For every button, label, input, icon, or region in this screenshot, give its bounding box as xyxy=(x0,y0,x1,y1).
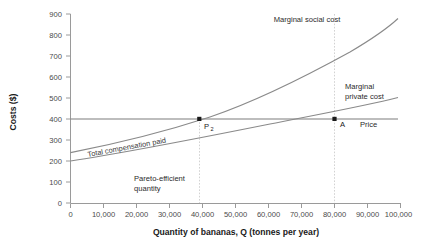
droplines-group xyxy=(200,14,335,203)
x-axis-ticks xyxy=(71,204,401,209)
y-tick-label-200: 200 xyxy=(49,157,62,166)
y-tick-label-600: 600 xyxy=(49,73,62,82)
y-tick-label-700: 700 xyxy=(49,52,62,61)
point-label-a: A xyxy=(340,120,346,129)
y-tick-label-300: 300 xyxy=(49,136,62,145)
point-label-p2: P 2 xyxy=(204,122,214,132)
y-tick-label-400: 400 xyxy=(49,115,62,124)
point-label-p2-subscript: 2 xyxy=(211,126,214,132)
x-tick-label-20000: 20,000 xyxy=(125,210,148,219)
pareto-efficient-quantity-label-line2: quantity xyxy=(134,184,161,193)
y-axis-tick-labels: 900 800 700 600 500 400 300 200 100 0 xyxy=(49,10,62,208)
pareto-efficient-quantity-label-line1: Pareto-efficient xyxy=(134,174,186,183)
y-axis-ticks xyxy=(66,14,71,203)
x-tick-label-80000: 80,000 xyxy=(323,210,346,219)
x-axis-tick-labels: 0 10,000 20,000 30,000 40,000 50,000 60,… xyxy=(68,210,412,219)
axis-group xyxy=(71,14,402,204)
x-tick-label-50000: 50,000 xyxy=(224,210,247,219)
x-tick-label-100000: 100,000 xyxy=(385,210,412,219)
x-tick-label-10000: 10,000 xyxy=(92,210,115,219)
marginal-private-cost-label-line2: private cost xyxy=(345,92,385,101)
x-tick-label-60000: 60,000 xyxy=(257,210,280,219)
point-marker-p2[interactable] xyxy=(197,117,201,121)
marginal-private-cost-label-line1: Marginal xyxy=(345,82,374,91)
price-label: Price xyxy=(360,120,377,129)
chart-figure: 900 800 700 600 500 400 300 200 100 0 xyxy=(0,0,422,247)
y-tick-label-800: 800 xyxy=(49,31,62,40)
marginal-social-cost-label: Marginal social cost xyxy=(274,15,342,24)
x-axis-title: Quantity of bananas, Q (tonnes per year) xyxy=(153,227,319,237)
chart-svg: 900 800 700 600 500 400 300 200 100 0 xyxy=(0,0,422,247)
x-tick-label-70000: 70,000 xyxy=(290,210,313,219)
x-tick-label-40000: 40,000 xyxy=(191,210,214,219)
x-tick-label-90000: 90,000 xyxy=(356,210,379,219)
x-tick-label-0: 0 xyxy=(68,210,72,219)
point-marker-a[interactable] xyxy=(332,117,336,121)
y-tick-label-100: 100 xyxy=(49,178,62,187)
point-label-p2-text: P xyxy=(204,122,209,131)
y-tick-label-500: 500 xyxy=(49,94,62,103)
y-tick-label-0: 0 xyxy=(58,199,62,208)
y-tick-label-900: 900 xyxy=(49,10,62,19)
x-tick-label-30000: 30,000 xyxy=(158,210,181,219)
total-compensation-paid-label: Total compensation paid xyxy=(87,136,167,159)
y-axis-title: Costs ($) xyxy=(8,93,18,130)
